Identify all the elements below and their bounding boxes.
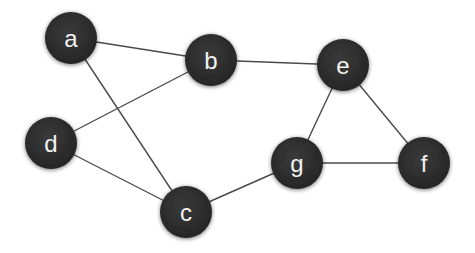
node-b: b — [185, 34, 237, 86]
nodes-layer: abdcegf — [25, 12, 450, 238]
edge-d-b — [51, 60, 211, 143]
node-g: g — [271, 137, 323, 189]
node-label: b — [204, 47, 217, 74]
edge-a-c — [71, 38, 186, 212]
node-d: d — [25, 117, 77, 169]
node-label: c — [180, 199, 192, 226]
node-a: a — [45, 12, 97, 64]
graph-diagram: abdcegf — [0, 0, 475, 253]
node-label: d — [44, 130, 57, 157]
node-label: e — [336, 52, 349, 79]
node-e: e — [317, 39, 369, 91]
node-c: c — [160, 186, 212, 238]
node-label: a — [64, 25, 78, 52]
node-label: f — [421, 150, 428, 177]
node-f: f — [398, 137, 450, 189]
node-label: g — [290, 150, 303, 177]
